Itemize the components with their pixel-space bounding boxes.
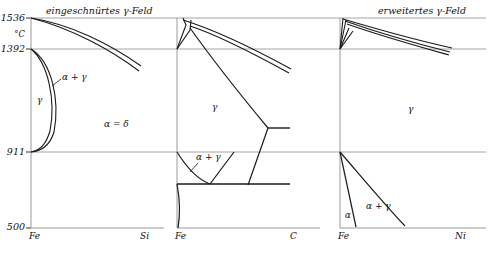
panel-c-liquidus	[183, 20, 291, 69]
panel-c-x-left-label: Fe	[175, 232, 186, 241]
panel-si-solidus	[31, 18, 139, 71]
panel-ni-x-right-label: Ni	[455, 232, 466, 241]
panel-si-alpha-gamma-label: α + γ	[62, 73, 87, 82]
axis-tick-label-1536: 1536	[0, 13, 25, 23]
panel-si-x-left-label: Fe	[29, 232, 40, 241]
panel-c-eutectic-branch	[248, 128, 268, 185]
panel-si-leader-alpha-gamma	[52, 79, 61, 86]
panel-si-gamma-label: γ	[37, 96, 42, 105]
panel-c-delta-wedge-left	[177, 18, 186, 49]
panel-c-alpha-gamma-label: α + γ	[196, 153, 221, 162]
axis-unit-label: °C	[0, 30, 25, 39]
panel-ni-alpha-label: α	[345, 211, 351, 220]
panel-c-x-right-label: C	[290, 232, 297, 241]
panel-si-liquidus	[31, 18, 141, 66]
panel-ni-solidus-2	[347, 24, 449, 55]
panel-c-solidus	[190, 26, 289, 73]
panel-ni	[340, 18, 486, 228]
axis-tick-label-500: 500	[0, 222, 25, 232]
axis-tick-label-911: 911	[0, 147, 25, 157]
axis-tick-label-1392: 1392	[0, 44, 25, 54]
panel-ni-liquidus	[343, 19, 452, 48]
panel-c	[177, 18, 320, 228]
temperature-axis-ticks	[26, 18, 31, 228]
panel-ni-title: erweitertes γ-Feld	[378, 6, 466, 16]
panel-c-leader-alpha-gamma	[190, 163, 198, 172]
panel-ni-solidus	[345, 21, 450, 52]
gridlines	[31, 18, 486, 152]
panel-si-title: eingeschnürtes γ-Feld	[46, 6, 153, 16]
panel-c-gamma-label: γ	[212, 103, 217, 112]
panel-c-acm-line	[190, 28, 268, 128]
panel-ni-alpha-gamma-label: α + γ	[366, 202, 391, 211]
phase-diagram-figure: 1536 °C 1392 911 500 eingeschnürtes γ-Fe…	[0, 0, 491, 258]
phase-diagram-canvas	[0, 0, 491, 258]
panel-si-alpha-equals-delta-label: α = δ	[104, 120, 129, 129]
panel-ni-x-left-label: Fe	[338, 232, 349, 241]
panel-ni-gamma-label: γ	[408, 105, 413, 114]
panel-si	[31, 18, 164, 228]
panel-si-x-right-label: Si	[140, 232, 149, 241]
